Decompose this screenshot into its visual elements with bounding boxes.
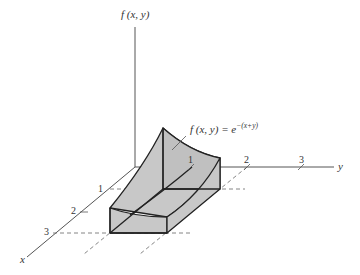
y-tick-3: 3 [299,154,304,165]
x-tick-3: 3 [44,226,49,237]
y-axis-label: y [337,160,343,172]
x-tick-1: 1 [98,183,103,194]
y-tick-2: 2 [244,154,249,165]
z-axis-label: f (x, y) [121,8,150,21]
function-label: f (x, y) = e−(x+y) [190,121,258,136]
x-axis-label: x [19,253,25,265]
density-diagram: f (x, y) y x 1 2 3 1 2 3 f (x, y) = e−(x… [0,0,360,275]
solid-region [110,128,220,233]
x-tick-2: 2 [71,205,76,216]
function-exponent: −(x+y) [236,121,258,130]
y-tick-1: 1 [188,154,193,165]
